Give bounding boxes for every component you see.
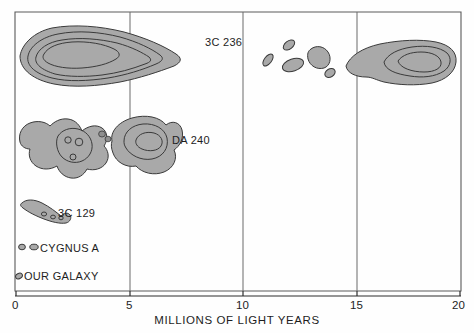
object-da240-east-lobe — [105, 116, 183, 174]
object-label-cygnus-a: CYGNUS A — [40, 242, 99, 254]
x-axis-title: MILLIONS OF LIGHT YEARS — [0, 314, 474, 326]
plot-canvas — [0, 0, 474, 333]
x-tick-label-15: 15 — [350, 299, 363, 311]
radio-galaxy-size-comparison-figure: 3C 236 DA 240 3C 129 CYGNUS A OUR GALAXY… — [0, 0, 474, 333]
object-label-da240: DA 240 — [172, 134, 210, 146]
object-cygnus-a — [19, 244, 39, 250]
object-3c236-far-lobe — [346, 40, 456, 85]
object-da240-west-lobe — [19, 119, 108, 178]
x-tick-label-20: 20 — [452, 299, 465, 311]
object-label-3c236: 3C 236 — [205, 36, 242, 48]
x-tick-label-10: 10 — [236, 299, 249, 311]
object-label-3c129: 3C 129 — [58, 207, 95, 219]
object-3c236-knots — [261, 38, 337, 79]
x-tick-label-5: 5 — [126, 299, 132, 311]
x-tick-label-0: 0 — [12, 299, 18, 311]
object-label-our-galaxy: OUR GALAXY — [24, 270, 99, 282]
object-3c236-main — [20, 26, 180, 86]
object-our-galaxy — [15, 272, 24, 280]
